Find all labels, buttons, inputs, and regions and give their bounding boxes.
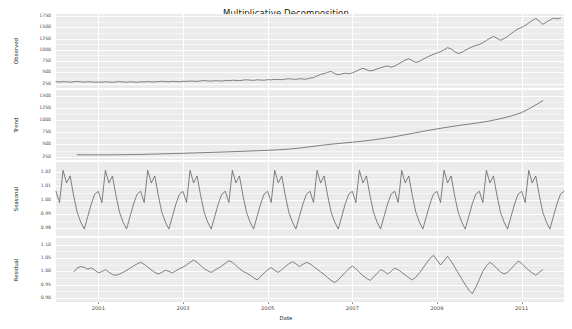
y-tick-label: 1500 xyxy=(0,94,51,99)
y-tick-label: 750 xyxy=(0,130,51,135)
y-tick-label: 0.98 xyxy=(0,225,51,230)
x-tick-label: 2001 xyxy=(92,306,105,311)
panel-observed xyxy=(56,14,564,88)
x-tick-label: 2009 xyxy=(430,306,443,311)
y-tick-label: 500 xyxy=(0,142,51,147)
y-tick-label: 1.05 xyxy=(0,256,51,261)
x-tick-mark xyxy=(183,302,184,304)
x-tick-mark xyxy=(522,302,523,304)
y-tick-label: 250 xyxy=(0,81,51,86)
x-tick-label: 2011 xyxy=(515,306,528,311)
y-tick-label: 1.10 xyxy=(0,242,51,247)
x-tick-mark xyxy=(268,302,269,304)
series-path xyxy=(56,170,564,229)
x-tick-mark xyxy=(98,302,99,304)
y-tick-label: 0.90 xyxy=(0,296,51,301)
y-axis-title-seasonal: Seasonal xyxy=(13,162,19,236)
x-axis-title: Date xyxy=(0,315,572,321)
y-tick-label: 1.01 xyxy=(0,183,51,188)
y-tick-label: 1000 xyxy=(0,118,51,123)
panel-residual xyxy=(56,238,564,302)
series-line-seasonal xyxy=(56,162,564,236)
y-axis-title-observed: Observed xyxy=(13,14,19,88)
y-tick-label: 1.00 xyxy=(0,269,51,274)
series-line-residual xyxy=(56,238,564,302)
y-tick-label: 1750 xyxy=(0,14,51,19)
y-tick-label: 250 xyxy=(0,154,51,159)
panel-seasonal xyxy=(56,162,564,236)
x-tick-label: 2003 xyxy=(176,306,189,311)
y-tick-label: 1000 xyxy=(0,48,51,53)
series-path xyxy=(74,255,543,293)
x-tick-label: 2005 xyxy=(261,306,274,311)
y-tick-label: 1250 xyxy=(0,36,51,41)
y-tick-label: 1.00 xyxy=(0,197,51,202)
y-axis-title-trend: Trend xyxy=(13,90,19,160)
y-tick-label: 1250 xyxy=(0,106,51,111)
decomposition-chart: Multiplicative Decomposition 20012003200… xyxy=(0,0,572,329)
panel-trend xyxy=(56,90,564,160)
y-tick-label: 1.02 xyxy=(0,169,51,174)
y-axis-title-residual: Residual xyxy=(13,238,19,302)
x-tick-mark xyxy=(437,302,438,304)
series-line-observed xyxy=(56,14,564,88)
x-tick-mark xyxy=(352,302,353,304)
x-tick-label: 2007 xyxy=(346,306,359,311)
y-tick-label: 500 xyxy=(0,70,51,75)
series-path xyxy=(56,18,560,82)
y-tick-label: 750 xyxy=(0,59,51,64)
series-path xyxy=(77,101,543,155)
y-tick-label: 1500 xyxy=(0,25,51,30)
y-tick-label: 0.95 xyxy=(0,282,51,287)
y-tick-label: 0.99 xyxy=(0,211,51,216)
series-line-trend xyxy=(56,90,564,160)
